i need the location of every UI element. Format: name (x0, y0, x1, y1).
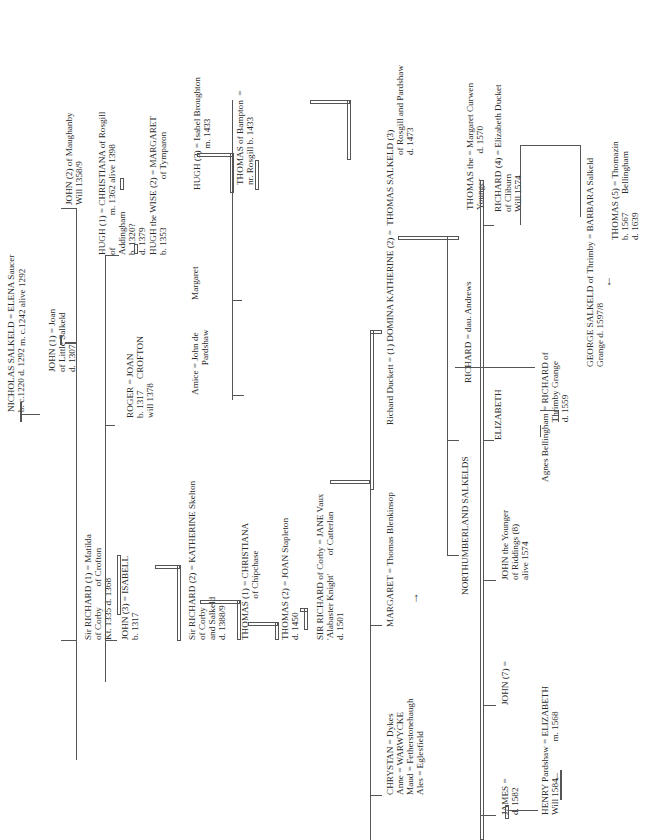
person-hugh_wise: HUGH the WISE (2) = MARGARETb. 1353 of T… (148, 116, 168, 255)
person-margaret_blenkinsop: MARGARET = Thomas Blenkinsop (385, 492, 395, 627)
person-line: m. c.1242 alive 1292 (17, 269, 27, 346)
person-richard_duckett: Richard Duckett = (1) DOMINA KATHERINE (… (385, 130, 395, 425)
person-line: b. 1320? (127, 112, 137, 255)
person-line: SIR RICHARD of Corby = JANE Vaux (315, 494, 325, 640)
connector (447, 440, 459, 441)
person-line: of Little Salkeld (57, 309, 67, 372)
connector (484, 440, 494, 441)
connector (61, 208, 77, 209)
connector (304, 608, 308, 630)
connector (480, 180, 484, 840)
person-line: RICHARD (4) = Elizabeth Ducket (493, 84, 503, 212)
person-thomas5: THOMAS (5) = Thomazinb. 1567 Bellinghamd… (610, 141, 640, 240)
person-richard4: RICHARD (4) = Elizabeth Ducketof Cliburn… (493, 84, 523, 212)
person-line: HENRY Pardshaw = ELIZABETH (540, 686, 550, 815)
person-henry: HENRY Pardshaw = ELIZABETHWill 1584 m. 1… (540, 686, 560, 815)
connector (197, 153, 233, 157)
connector (76, 208, 77, 340)
person-line: nr. Rosgill b. 1433 (245, 90, 255, 185)
person-john7: JOHN (7) = (500, 661, 510, 705)
person-line: JOHN (3) = ISABELL (120, 556, 130, 640)
connector (484, 580, 496, 581)
person-line: d. 1450 (290, 518, 300, 640)
connector (22, 414, 40, 415)
connector (480, 815, 496, 816)
person-line: d. 1379 (137, 112, 147, 255)
person-amice: Amice = John de Pardshaw (190, 329, 210, 395)
person-line: NORTHUMBERLAND SALKELDS (460, 456, 470, 595)
arrow-down-icon: ↓ (606, 275, 612, 287)
person-agnes: Agnes Bellingham = RICHARD of Thrimby Gr… (540, 352, 570, 482)
connector (484, 705, 496, 706)
person-line: Grange d. 1597/8 (595, 158, 605, 367)
connector (330, 480, 370, 484)
person-line: Margaret (190, 266, 200, 300)
connector (370, 625, 382, 626)
connector (455, 367, 535, 368)
connector (370, 480, 371, 840)
connector (105, 425, 115, 426)
person-john_younger: JOHN the Youngerof Riddings (8)alive 157… (500, 510, 530, 580)
person-line: JOHN (7) = (500, 661, 510, 705)
person-john3: JOHN (3) = ISABELLb. 1317 (120, 556, 140, 640)
person-elizabeth: ELIZABETH (493, 389, 503, 440)
connector (558, 410, 559, 422)
connector (255, 160, 259, 190)
person-line: HUGH the WISE (2) = MARGARET (148, 116, 158, 255)
connector (177, 565, 181, 641)
connector (248, 622, 278, 626)
arrow-right-icon: ↓ (554, 770, 560, 782)
connector (61, 640, 77, 641)
person-thomas2: THOMAS (2) = JOAN Stapletond. 1450 (280, 518, 300, 640)
person-line: m. 1433 (202, 77, 212, 190)
person-line: CHRYSTAN = Dykes (385, 698, 395, 795)
connector (105, 640, 117, 641)
person-line: JOHN (2) of Maughanby (64, 112, 74, 205)
connector (232, 100, 233, 400)
person-line: of m. 1362 alive 1398 (107, 112, 117, 255)
person-line: HUGH (1) = CHRISTIANA of Rosgill (97, 112, 107, 255)
person-line: of Corby (197, 481, 207, 640)
person-sir_richard_corby: SIR RICHARD of Corby = JANE Vaux'Alabast… (315, 494, 345, 640)
connector (484, 225, 494, 226)
connector (508, 810, 538, 811)
person-line: Amice = John de (190, 329, 200, 395)
connector (447, 555, 459, 556)
connector (540, 410, 558, 411)
connector (447, 236, 459, 240)
person-line: Sir RICHARD (1) = Matilda (83, 534, 93, 640)
person-line: ELIZABETH (493, 389, 503, 440)
connector (540, 425, 541, 437)
connector (370, 330, 374, 490)
person-line: of Riddings (8) (510, 510, 520, 580)
person-line: JOHN the Younger (500, 510, 510, 580)
connector (105, 255, 119, 256)
person-thomas_bampton: THOMAS of Bampton =nr. Rosgill b. 1433 (235, 90, 255, 185)
connector (20, 402, 22, 422)
person-line: d. 1639 (630, 141, 640, 240)
connector (230, 153, 234, 193)
person-line: b. 1567 Bellingham (620, 141, 630, 240)
person-line: b. 1317 (130, 556, 140, 640)
connector (310, 100, 350, 104)
connector (370, 795, 382, 796)
person-line: NICHOLAS SALKELD = ELENA Saucer (6, 255, 16, 412)
person-line: d. 1501 (335, 494, 345, 640)
person-line: JOHN (1) = Joan (47, 309, 57, 372)
person-line: d. 1388/9 (217, 481, 227, 640)
person-elena_m: m. c.1242 alive 1292 (17, 269, 27, 346)
connector (520, 145, 580, 146)
connector (232, 395, 244, 396)
person-line: will 1378 (145, 336, 155, 418)
person-line: THOMAS (2) = JOAN Stapleton (280, 518, 290, 640)
person-line: b. 1353 of Tymparon (158, 116, 168, 255)
connector (347, 100, 351, 160)
person-john1: JOHN (1) = Joanof Little Salkeldd. 1307 (47, 309, 77, 372)
connector (105, 255, 106, 551)
person-line: THOMAS the = Margaret Curwen (465, 83, 475, 210)
connector (200, 600, 240, 604)
connector (398, 236, 448, 240)
connector (580, 145, 581, 217)
person-line: b. 1317 CROFTON (135, 336, 145, 418)
person-line: Sir RICHARD (2) = KATHERINE Skelton (187, 481, 197, 640)
